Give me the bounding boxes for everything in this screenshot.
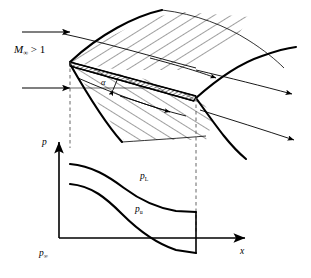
mach-operator: > bbox=[31, 43, 37, 55]
upper-downstream-arrow bbox=[196, 70, 292, 94]
freestream-pressure-label: p∞ bbox=[39, 249, 48, 260]
mach-value: 1 bbox=[40, 43, 46, 55]
pu-subscript: u bbox=[140, 209, 143, 215]
pressure-axis-label: p bbox=[42, 138, 47, 148]
pressure-lower-curve-label: pL bbox=[140, 172, 148, 183]
x-axis-label: x bbox=[240, 247, 244, 257]
mach-symbol: M bbox=[14, 43, 23, 55]
pressure-upper-curve-label: pu bbox=[135, 205, 143, 216]
mach-subscript: ∞ bbox=[23, 49, 28, 56]
pl-subscript: L bbox=[145, 176, 149, 182]
angle-of-attack-label: α bbox=[101, 78, 105, 87]
lower-downstream-arrow bbox=[200, 110, 294, 140]
mach-number-label: M∞ > 1 bbox=[14, 44, 45, 57]
figure-root: M∞ > 1 α p x pL pu p∞ bbox=[0, 0, 311, 278]
pinf-subscript: ∞ bbox=[44, 253, 48, 259]
